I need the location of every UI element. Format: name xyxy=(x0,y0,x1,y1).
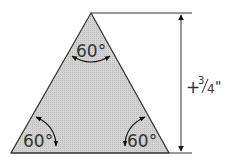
top-angle-label: 60° xyxy=(76,41,106,61)
triangle-diagram: 60° 60° 60° + 3 4 " xyxy=(0,0,239,168)
height-dimension-label: + 3 4 " xyxy=(186,75,221,97)
dimension-unit: " xyxy=(215,78,221,94)
dimension-numerator: 3 xyxy=(198,75,204,86)
dimension-denominator: 4 xyxy=(207,82,215,96)
bottom-left-angle-label: 60° xyxy=(23,131,53,151)
bottom-right-angle-label: 60° xyxy=(127,131,157,151)
